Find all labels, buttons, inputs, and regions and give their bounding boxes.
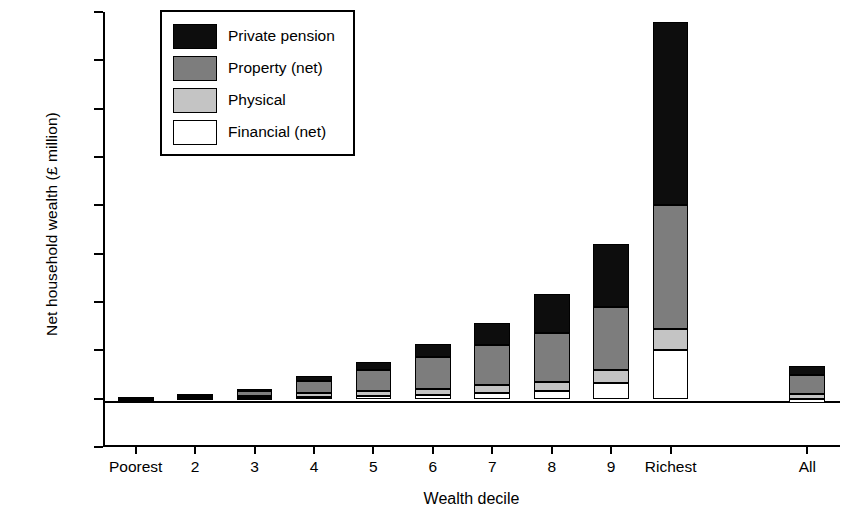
bar-segment-property xyxy=(356,370,392,391)
x-axis-tick xyxy=(194,445,196,454)
legend-label-financial-net: Financial (net) xyxy=(228,123,326,141)
x-axis-line xyxy=(103,445,840,447)
x-axis-tick xyxy=(670,445,672,454)
bar-segment-physical xyxy=(593,370,629,384)
x-axis-tick xyxy=(313,445,315,454)
bar-segment-pension xyxy=(653,22,689,206)
bar-segment-pension xyxy=(296,376,332,381)
y-axis-tick xyxy=(94,301,103,303)
x-axis-tick-label: Richest xyxy=(645,458,697,476)
bar-segment-pension xyxy=(177,394,213,396)
bar-segment-financial xyxy=(789,399,825,403)
y-axis-tick xyxy=(94,204,103,206)
bar-segment-physical xyxy=(177,397,213,399)
y-axis-tick xyxy=(94,398,103,400)
x-axis-tick-label: 9 xyxy=(607,458,616,476)
x-axis-tick-label: Poorest xyxy=(109,458,162,476)
bar-8 xyxy=(534,12,570,447)
y-axis-title: Net household wealth (£ million) xyxy=(43,59,61,389)
bar-segment-property xyxy=(415,357,451,389)
bar-segment-property xyxy=(593,307,629,370)
x-axis-tick-label: 8 xyxy=(547,458,556,476)
bar-segment-physical xyxy=(356,391,392,396)
bar-richest xyxy=(653,12,689,447)
bar-segment-financial xyxy=(296,397,332,399)
legend-label-property-net: Property (net) xyxy=(228,59,323,77)
legend-swatch-financial-net xyxy=(173,120,217,145)
zero-baseline xyxy=(103,401,840,403)
legend-item-physical: Physical xyxy=(173,85,353,115)
bar-9 xyxy=(593,12,629,447)
x-axis-tick xyxy=(491,445,493,454)
bar-6 xyxy=(415,12,451,447)
bar-segment-property xyxy=(534,333,570,382)
bar-5 xyxy=(356,12,392,447)
x-axis-tick xyxy=(135,445,137,454)
legend-item-property-net: Property (net) xyxy=(173,53,353,83)
x-axis-tick xyxy=(254,445,256,454)
legend-item-financial-net: Financial (net) xyxy=(173,117,353,147)
y-axis-tick xyxy=(94,108,103,110)
bar-segment-physical xyxy=(653,329,689,350)
bar-segment-financial xyxy=(653,350,689,398)
bar-segment-pension xyxy=(237,389,273,391)
bar-segment-pension xyxy=(474,323,510,344)
bar-segment-financial xyxy=(356,396,392,399)
legend: Private pension Property (net) Physical … xyxy=(160,10,355,156)
legend-item-private-pension: Private pension xyxy=(173,21,353,51)
bar-segment-physical xyxy=(237,396,273,398)
bar-segment-pension xyxy=(789,366,825,376)
bar-segment-financial xyxy=(534,391,570,399)
legend-swatch-private-pension xyxy=(173,24,217,49)
stacked-bar-chart: Net household wealth (£ million) −£0.5£0… xyxy=(0,0,849,520)
x-axis-tick-label: 3 xyxy=(250,458,259,476)
bar-segment-pension xyxy=(593,244,629,307)
y-axis-line xyxy=(103,12,105,447)
x-axis-tick-label: 6 xyxy=(429,458,438,476)
legend-label-private-pension: Private pension xyxy=(228,27,335,45)
x-axis-tick xyxy=(372,445,374,454)
y-axis-tick xyxy=(94,11,103,13)
x-axis-tick xyxy=(806,445,808,454)
y-axis-tick xyxy=(94,156,103,158)
bar-segment-property xyxy=(653,205,689,329)
bar-segment-pension xyxy=(534,294,570,333)
bar-segment-property xyxy=(789,375,825,393)
y-axis-tick xyxy=(94,253,103,255)
x-axis-tick-label: 5 xyxy=(369,458,378,476)
x-axis-tick-label: 7 xyxy=(488,458,497,476)
legend-swatch-property-net xyxy=(173,56,217,81)
bar-segment-financial xyxy=(474,393,510,399)
bar-segment-physical xyxy=(415,389,451,395)
bar-segment-financial xyxy=(415,395,451,399)
legend-swatch-physical xyxy=(173,88,217,113)
bar-segment-pension xyxy=(415,344,451,358)
bar-segment-property xyxy=(237,391,273,396)
bar-segment-financial xyxy=(593,383,629,398)
x-axis-tick xyxy=(432,445,434,454)
bar-segment-pension xyxy=(118,397,154,399)
x-axis-title: Wealth decile xyxy=(103,490,840,508)
x-axis-tick-label: All xyxy=(799,458,816,476)
bar-segment-property xyxy=(296,381,332,393)
bar-segment-physical xyxy=(534,382,570,391)
bar-7 xyxy=(474,12,510,447)
bar-segment-pension xyxy=(356,362,392,370)
bar-segment-financial xyxy=(237,398,273,400)
bar-segment-physical xyxy=(296,393,332,397)
x-axis-tick xyxy=(610,445,612,454)
y-axis-tick xyxy=(94,446,103,448)
x-axis-tick xyxy=(551,445,553,454)
y-axis-tick xyxy=(94,349,103,351)
bar-segment-physical xyxy=(474,385,510,393)
bar-poorest xyxy=(118,12,154,447)
bar-segment-physical xyxy=(789,394,825,399)
x-axis-tick-label: 2 xyxy=(191,458,200,476)
bar-all xyxy=(789,12,825,447)
y-axis-tick xyxy=(94,59,103,61)
x-axis-tick-label: 4 xyxy=(310,458,319,476)
bar-segment-property xyxy=(474,345,510,386)
legend-label-physical: Physical xyxy=(228,91,286,109)
